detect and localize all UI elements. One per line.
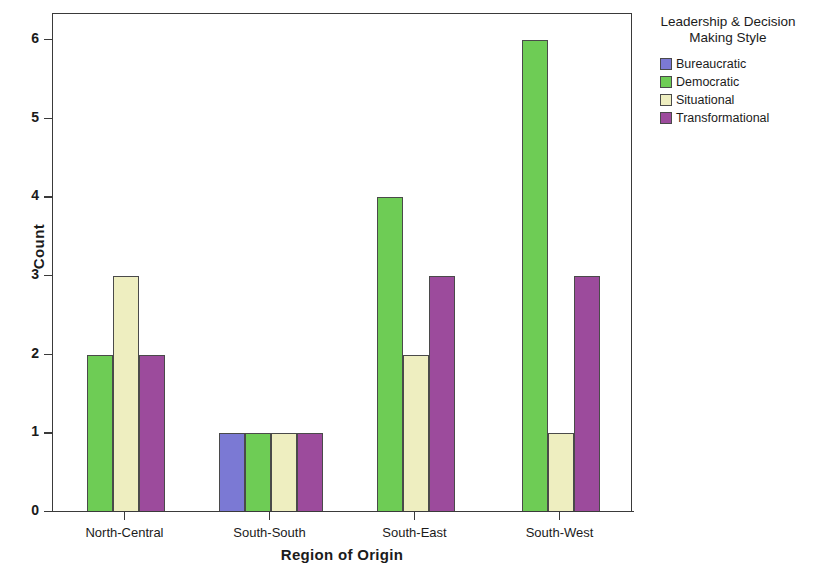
bar-north-central-democratic <box>87 355 113 512</box>
y-tick-label: 4 <box>31 187 39 203</box>
x-axis-line <box>52 511 634 512</box>
legend-title: Leadership & Decision Making Style <box>640 14 816 46</box>
legend-item-situational: Situational <box>660 91 822 108</box>
y-tick-label: 2 <box>31 345 39 361</box>
bar-south-east-democratic <box>377 197 403 512</box>
legend-swatch-bureaucratic <box>660 58 672 70</box>
bar-south-south-transformational <box>297 433 323 512</box>
x-axis-title: Region of Origin <box>52 546 632 563</box>
x-tick-label-south-east: South-East <box>340 525 490 540</box>
legend-label: Bureaucratic <box>676 57 746 71</box>
bar-south-south-situational <box>271 433 297 512</box>
x-tick-label-south-south: South-South <box>195 525 345 540</box>
y-tick-mark <box>44 118 52 119</box>
y-tick-label: 3 <box>31 266 39 282</box>
legend-swatch-transformational <box>660 112 672 124</box>
y-tick-2: 2 <box>0 354 52 355</box>
y-tick-mark <box>44 354 52 355</box>
y-tick-0: 0 <box>0 511 52 512</box>
legend-items: BureaucraticDemocraticSituationalTransfo… <box>660 55 822 126</box>
legend-label: Situational <box>676 93 734 107</box>
legend-swatch-democratic <box>660 76 672 88</box>
y-tick-mark <box>44 39 52 40</box>
x-tick-mark <box>414 511 415 520</box>
y-tick-4: 4 <box>0 196 52 197</box>
x-tick-label-north-central: North-Central <box>50 525 200 540</box>
y-tick-mark <box>44 275 52 276</box>
y-tick-3: 3 <box>0 275 52 276</box>
legend-item-bureaucratic: Bureaucratic <box>660 55 822 72</box>
bar-south-east-situational <box>403 355 429 512</box>
bar-south-south-democratic <box>245 433 271 512</box>
x-tick-label-south-west: South-West <box>485 525 635 540</box>
legend-label: Democratic <box>676 75 739 89</box>
bar-south-south-bureaucratic <box>219 433 245 512</box>
bar-south-east-transformational <box>429 276 455 512</box>
bar-south-west-democratic <box>522 40 548 512</box>
legend-swatch-situational <box>660 94 672 106</box>
x-tick-mark <box>124 511 125 520</box>
bar-south-west-situational <box>548 433 574 512</box>
bar-south-west-transformational <box>574 276 600 512</box>
legend-label: Transformational <box>676 111 769 125</box>
x-tick-mark <box>559 511 560 520</box>
y-tick-mark <box>44 196 52 197</box>
y-tick-label: 1 <box>31 423 39 439</box>
bar-north-central-transformational <box>139 355 165 512</box>
y-tick-label: 0 <box>31 502 39 518</box>
legend: Leadership & Decision Making Style Burea… <box>640 14 822 127</box>
y-tick-mark <box>44 511 52 512</box>
y-tick-mark <box>44 432 52 433</box>
y-tick-label: 5 <box>31 109 39 125</box>
y-tick-5: 5 <box>0 118 52 119</box>
y-tick-label: 6 <box>31 30 39 46</box>
legend-title-line-2: Making Style <box>640 30 816 46</box>
bar-chart-figure: Count 0123456 North-CentralSouth-SouthSo… <box>0 0 824 574</box>
y-axis-title: Count <box>30 187 47 307</box>
bar-north-central-situational <box>113 276 139 512</box>
x-tick-mark <box>269 511 270 520</box>
y-tick-1: 1 <box>0 432 52 433</box>
plot-area <box>52 13 632 511</box>
legend-item-transformational: Transformational <box>660 109 822 126</box>
legend-item-democratic: Democratic <box>660 73 822 90</box>
y-tick-6: 6 <box>0 39 52 40</box>
legend-title-line-1: Leadership & Decision <box>640 14 816 30</box>
